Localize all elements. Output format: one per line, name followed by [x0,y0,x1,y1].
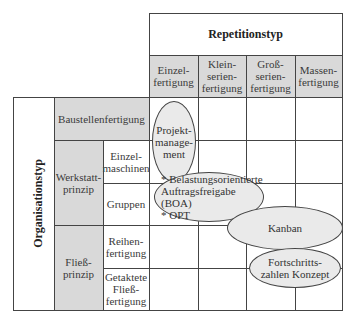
row-label-reihenfertigung: Reihen- fertigung [103,225,149,268]
row-label-getaktete-fliessfertigung: Getaktete Fließ- fertigung [103,268,149,310]
group-label-werkstattprinzip: Werkstatt- prinzip [54,140,103,225]
column-header-massenfertigung: Massen- fertigung [295,55,342,97]
ellipse-kanban: Kanban [227,206,343,250]
column-header-grossserienfertigung: Groß- serien- fertigung [246,55,295,97]
column-header-kleinserienfertigung: Klein- serien- fertigung [198,55,246,97]
column-header-einzelfertigung: Einzel- fertigung [149,55,198,97]
row-label-gruppen: Gruppen [103,183,149,225]
group-label-fliessprinzip: Fließ- prinzip [54,225,103,310]
repetitionstyp-title: Repetitionstyp [149,13,342,55]
ellipse-fortschrittszahlen-konzept: Fortschritts- zahlen Konzept [249,248,341,288]
row-label-baustellenfertigung: Baustellenfertigung [54,98,149,140]
organisationstyp-title: Organisationstyp [31,144,46,264]
ellipse-projektmanagement: Projekt- manage- ment [152,101,196,182]
row-label-einzelmaschinen: Einzel- maschinen [103,140,149,183]
